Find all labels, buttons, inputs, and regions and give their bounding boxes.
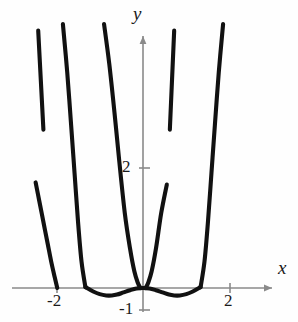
curve-inner-right-wall	[146, 185, 167, 288]
curve-outer-right-branch	[201, 24, 224, 287]
axes-group	[12, 36, 272, 312]
plot-canvas	[0, 0, 298, 322]
x-axis-arrowhead	[264, 285, 272, 292]
y-tick-label-neg1: -1	[119, 300, 133, 317]
curve-inner-left-wall	[104, 24, 140, 288]
x-tick-label-pos2: 2	[224, 292, 233, 309]
y-axis-arrowhead	[140, 36, 147, 44]
function-plot: y x -2 2 2 -1	[0, 0, 298, 322]
y-axis-label: y	[133, 4, 141, 23]
curve-isolated-upper-far-left	[38, 31, 43, 130]
x-axis-label: x	[278, 258, 286, 277]
y-tick-label-pos2: 2	[122, 158, 131, 175]
curve-isolated-upper-right	[170, 31, 174, 130]
curve-isolated-left-arc	[36, 182, 58, 288]
curve-outer-left-branch	[63, 24, 86, 287]
x-tick-label-neg2: -2	[47, 292, 61, 309]
